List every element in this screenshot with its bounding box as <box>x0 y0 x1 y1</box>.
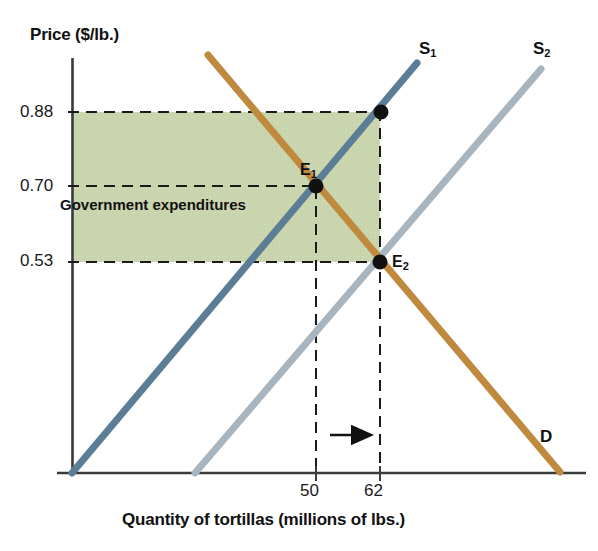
supply-demand-figure: Price ($/lb.) Quantity of tortillas (mil… <box>0 0 598 551</box>
government-expenditures-label: Government expenditures <box>60 197 246 212</box>
x-axis-title: Quantity of tortillas (millions of lbs.) <box>122 511 405 528</box>
equilibrium-label-e2: E2 <box>392 254 409 270</box>
supply-curve-s1-label: S1 <box>419 40 436 57</box>
ytick-label-070: 0.70 <box>20 177 53 194</box>
y-axis-title: Price ($/lb.) <box>30 26 119 43</box>
e2-letter: E <box>392 253 403 270</box>
equilibrium-point-e2[interactable] <box>373 255 388 270</box>
xtick-label-62: 62 <box>364 482 383 499</box>
supply-curve-s2-label: S2 <box>533 40 550 57</box>
government-expenditures-region <box>73 112 380 262</box>
s2-subscript: 2 <box>544 47 550 59</box>
chart-plot-area <box>0 0 598 551</box>
s1-subscript: 1 <box>430 47 436 59</box>
demand-curve-label: D <box>540 428 552 445</box>
ytick-label-053: 0.53 <box>20 252 53 269</box>
s2-letter: S <box>533 39 544 58</box>
e1-letter: E <box>300 161 311 178</box>
e1-subscript: 1 <box>311 168 317 180</box>
xtick-label-50: 50 <box>300 482 319 499</box>
equilibrium-label-e1: E1 <box>300 162 317 178</box>
equilibrium-point-e1[interactable] <box>309 179 324 194</box>
producer-price-point[interactable] <box>374 105 389 120</box>
ytick-label-088: 0.88 <box>20 103 53 120</box>
s1-letter: S <box>419 39 430 58</box>
e2-subscript: 2 <box>403 260 409 272</box>
